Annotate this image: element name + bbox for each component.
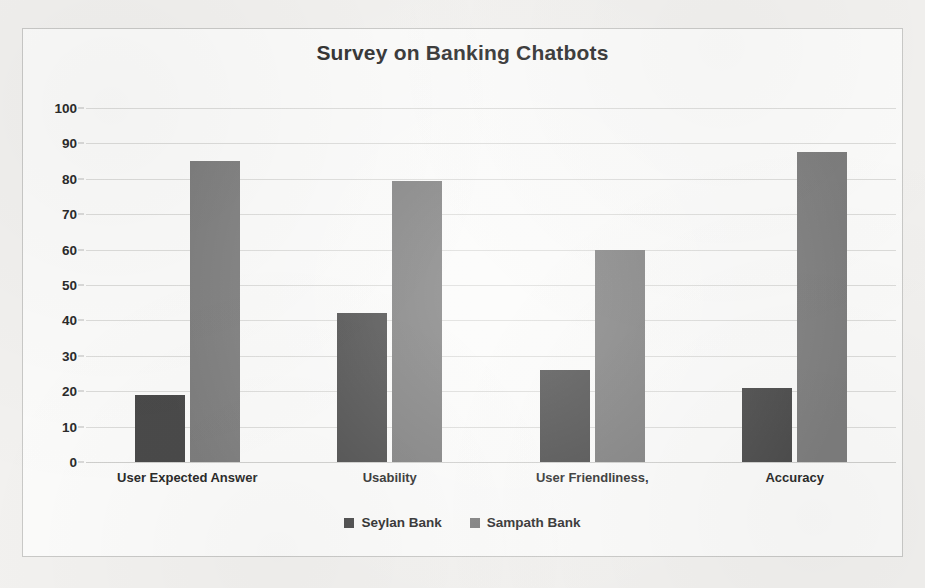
bar-group-bars — [289, 108, 492, 462]
gridline — [86, 462, 896, 463]
x-axis-category-label: Usability — [289, 470, 492, 485]
y-axis-tick-label: 0 — [69, 455, 77, 470]
y-axis-tick-label: 60 — [62, 242, 77, 257]
bar-group — [289, 108, 492, 462]
bar-sampath-bank[interactable] — [595, 250, 645, 462]
legend-label: Seylan Bank — [361, 515, 441, 530]
y-axis-tick-label: 10 — [62, 419, 77, 434]
legend-swatch-icon — [470, 518, 480, 528]
bar-group-bars — [694, 108, 897, 462]
legend-item-sampath-bank[interactable]: Sampath Bank — [470, 515, 581, 530]
y-axis-tick-label: 50 — [62, 278, 77, 293]
y-axis-tick-label: 100 — [54, 101, 77, 116]
chart-title: Survey on Banking Chatbots — [23, 41, 902, 65]
y-axis-tick-label: 20 — [62, 384, 77, 399]
plot-area: 1009080706050403020100 — [86, 108, 896, 462]
bar-seylan-bank[interactable] — [540, 370, 590, 462]
x-axis-category-label: Accuracy — [694, 470, 897, 485]
bar-seylan-bank[interactable] — [337, 313, 387, 462]
x-axis-labels: User Expected AnswerUsabilityUser Friend… — [86, 470, 896, 485]
bar-seylan-bank[interactable] — [135, 395, 185, 462]
bar-seylan-bank[interactable] — [742, 388, 792, 462]
chart-legend: Seylan BankSampath Bank — [23, 515, 902, 530]
y-axis-tick-label: 90 — [62, 136, 77, 151]
bar-sampath-bank[interactable] — [797, 152, 847, 462]
bar-groups — [86, 108, 896, 462]
y-axis-tick-mark — [78, 355, 84, 356]
y-axis-tick-mark — [78, 320, 84, 321]
y-axis-tick-mark — [78, 108, 84, 109]
legend-swatch-icon — [344, 518, 354, 528]
x-axis-category-label: User Expected Answer — [86, 470, 289, 485]
chart-container: Survey on Banking Chatbots 1009080706050… — [22, 28, 903, 557]
y-axis-tick-mark — [78, 214, 84, 215]
legend-label: Sampath Bank — [487, 515, 581, 530]
bar-group — [694, 108, 897, 462]
y-axis-tick-label: 30 — [62, 348, 77, 363]
y-axis-tick-label: 80 — [62, 171, 77, 186]
y-axis-tick-mark — [78, 249, 84, 250]
y-axis-tick-mark — [78, 426, 84, 427]
bar-group-bars — [491, 108, 694, 462]
x-axis-category-label: User Friendliness, — [491, 470, 694, 485]
bar-group — [491, 108, 694, 462]
y-axis-tick-mark — [78, 462, 84, 463]
y-axis-tick-mark — [78, 178, 84, 179]
bar-group-bars — [86, 108, 289, 462]
y-axis-tick-label: 70 — [62, 207, 77, 222]
y-axis-tick-label: 40 — [62, 313, 77, 328]
y-axis-tick-mark — [78, 285, 84, 286]
y-axis-tick-mark — [78, 143, 84, 144]
bar-sampath-bank[interactable] — [392, 181, 442, 462]
bar-group — [86, 108, 289, 462]
bar-sampath-bank[interactable] — [190, 161, 240, 462]
y-axis-tick-mark — [78, 391, 84, 392]
legend-item-seylan-bank[interactable]: Seylan Bank — [344, 515, 441, 530]
